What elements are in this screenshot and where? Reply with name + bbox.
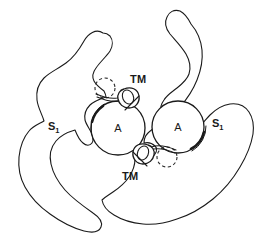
right-region-label: S1	[212, 117, 224, 132]
left-region-label-sub: 1	[55, 126, 59, 135]
left-region-label-main: S	[48, 120, 55, 132]
tm-top-label: TM	[130, 73, 147, 85]
right-region-label-sub: 1	[219, 123, 223, 132]
figure-container: A A TM TM S1 S1	[0, 0, 273, 248]
right-cell-label: A	[174, 121, 182, 133]
left-region-label: S1	[48, 120, 60, 135]
diagram-svg: A A TM TM S1 S1	[0, 0, 273, 248]
right-region-label-main: S	[212, 117, 219, 129]
left-cell-label: A	[114, 122, 122, 134]
tm-bottom-label: TM	[122, 170, 139, 182]
